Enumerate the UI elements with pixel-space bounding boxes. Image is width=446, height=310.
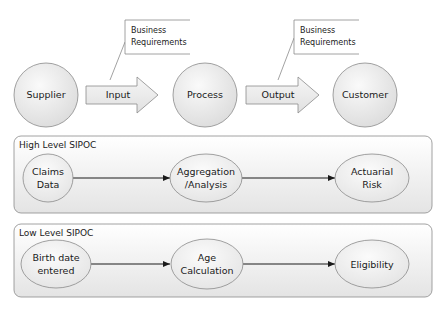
callout-line-1: Business [300, 26, 335, 35]
node-label-line-1: Birth date [32, 252, 79, 263]
customer-label: Customer [342, 89, 388, 100]
node-label-line-1: Actuarial [351, 166, 393, 177]
node-actuarial-risk: Actuarial Risk [335, 154, 409, 202]
callout-leader-line [278, 38, 294, 80]
node-label-line-2: Calculation [181, 265, 234, 276]
customer-node: Customer [333, 63, 397, 127]
node-label-line-2: Data [37, 179, 60, 190]
high-level-title: High Level SIPOC [19, 140, 96, 150]
node-label-line-1: Aggregation [177, 166, 235, 177]
node-birth-date-entered: Birth date entered [21, 240, 91, 288]
process-label: Process [187, 89, 223, 100]
supplier-label: Supplier [26, 89, 65, 100]
callout-leader-line [110, 42, 125, 80]
low-level-title: Low Level SIPOC [19, 228, 93, 238]
sipoc-diagram: Business Requirements Business Requireme… [0, 0, 446, 310]
node-age-calculation: Age Calculation [171, 239, 243, 289]
node-label-line-2: Risk [362, 179, 382, 190]
input-arrow: Input [86, 77, 158, 113]
callout-line-2: Requirements [300, 38, 356, 47]
callout-line-2: Requirements [131, 38, 187, 47]
process-node: Process [173, 63, 237, 127]
node-eligibility: Eligibility [335, 240, 409, 288]
node-label-line-1: Claims [32, 166, 64, 177]
callout-input-requirements: Business Requirements [110, 20, 190, 80]
callout-line-1: Business [131, 26, 166, 35]
node-label: Eligibility [350, 259, 394, 270]
input-label: Input [106, 89, 131, 100]
node-label-line-2: entered [37, 265, 74, 276]
node-claims-data: Claims Data [23, 154, 73, 202]
output-arrow: Output [246, 77, 319, 113]
output-label: Output [262, 89, 295, 100]
node-label-line-1: Age [198, 252, 217, 263]
high-level-sipoc-panel: High Level SIPOC Claims Data Aggregation… [14, 136, 432, 213]
supplier-node: Supplier [14, 63, 78, 127]
low-level-sipoc-panel: Low Level SIPOC Birth date entered Age C… [14, 224, 432, 297]
node-aggregation-analysis: Aggregation /Analysis [170, 154, 242, 202]
node-label-line-2: /Analysis [185, 179, 227, 190]
